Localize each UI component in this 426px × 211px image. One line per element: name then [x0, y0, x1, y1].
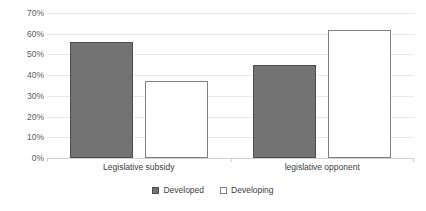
y-axis-tick-label: 60% — [0, 29, 44, 38]
bar-developed-1 — [253, 65, 316, 158]
chart-legend: DevelopedDeveloping — [0, 185, 426, 196]
y-axis-tick-label: 30% — [0, 91, 44, 100]
filled-square-icon — [152, 187, 159, 194]
y-axis-tick-label: 10% — [0, 133, 44, 142]
legend-item-developing[interactable]: Developing — [220, 185, 274, 196]
outlined-square-icon — [220, 187, 227, 194]
plot-area — [47, 13, 414, 158]
bar-developing-1 — [328, 30, 391, 158]
x-axis-category-label: Legislative subsidy — [47, 162, 231, 173]
y-axis-tick-label: 0% — [0, 154, 44, 163]
y-axis-tick-label: 40% — [0, 71, 44, 80]
legend-item-label: Developing — [231, 185, 274, 196]
bar-developed-0 — [70, 42, 133, 158]
x-axis-category-label: legislative opponent — [231, 162, 415, 173]
y-axis-tick-label: 50% — [0, 50, 44, 59]
bar-chart: 0%10%20%30%40%50%60%70% Legislative subs… — [0, 0, 426, 211]
y-axis-tick-label: 70% — [0, 9, 44, 18]
legend-item-label: Developed — [163, 185, 204, 196]
y-axis-tick-label: 20% — [0, 112, 44, 121]
x-axis: Legislative subsidylegislative opponent — [47, 162, 414, 178]
legend-item-developed[interactable]: Developed — [152, 185, 204, 196]
y-axis: 0%10%20%30%40%50%60%70% — [0, 13, 44, 158]
gridline — [47, 13, 414, 14]
bar-developing-0 — [145, 81, 208, 158]
